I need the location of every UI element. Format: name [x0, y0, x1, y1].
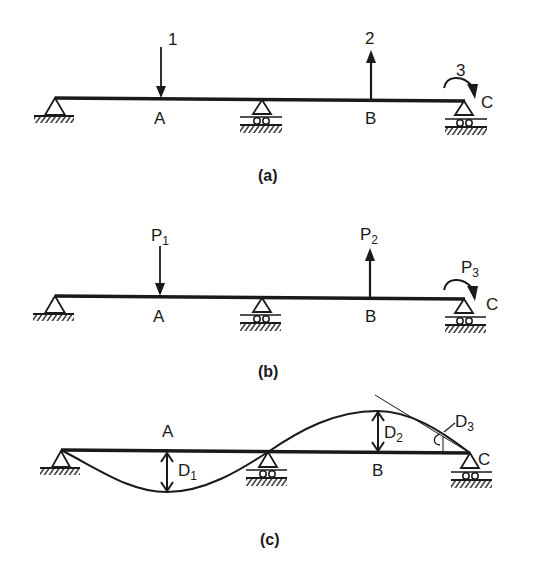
displacement-label: D3 [455, 412, 474, 434]
point-label-b: B [372, 461, 383, 480]
load-label: P2 [360, 225, 378, 247]
point-label-c: C [486, 295, 498, 314]
panel-caption: (a) [258, 167, 278, 184]
roller-support-icon [246, 452, 287, 486]
panel-c: D1 D2 D3 A B C (c) [40, 395, 492, 548]
roller-support-icon [240, 100, 282, 133]
panel-caption: (b) [258, 363, 278, 380]
beam [55, 296, 465, 299]
arrow-up-icon [366, 50, 376, 100]
double-arrow-icon [372, 412, 384, 451]
pin-support-icon [40, 451, 80, 475]
arrow-up-icon [365, 248, 375, 298]
load-label: 3 [456, 61, 465, 80]
arrow-down-icon [156, 47, 166, 98]
load-label: P3 [461, 258, 479, 280]
point-label-c: C [478, 450, 490, 469]
load-label: 1 [168, 30, 177, 49]
arrow-down-icon [155, 246, 165, 296]
panel-b: P1 P2 P3 A B C (b) [33, 225, 498, 380]
point-label-b: B [365, 307, 376, 326]
point-label-b: B [365, 109, 376, 128]
load-label: P1 [151, 226, 169, 248]
roller-support-icon [445, 299, 486, 333]
beam [55, 98, 465, 101]
pin-support-icon [33, 296, 74, 321]
point-label-a: A [154, 109, 166, 128]
point-label-a: A [153, 307, 165, 326]
roller-support-icon [240, 298, 281, 331]
load-label: 2 [365, 29, 374, 48]
moment-clockwise-icon [444, 78, 478, 99]
point-label-a: A [162, 422, 174, 441]
displacement-label: D2 [384, 423, 403, 445]
point-label-c: C [481, 93, 493, 112]
panel-a: 1 2 3 A B C (a) [34, 29, 493, 184]
panel-caption: (c) [260, 531, 280, 548]
pin-support-icon [34, 98, 74, 123]
double-arrow-icon [161, 453, 173, 491]
displacement-label: D1 [178, 461, 197, 483]
beam-diagram: 1 2 3 A B C (a) [0, 0, 544, 568]
